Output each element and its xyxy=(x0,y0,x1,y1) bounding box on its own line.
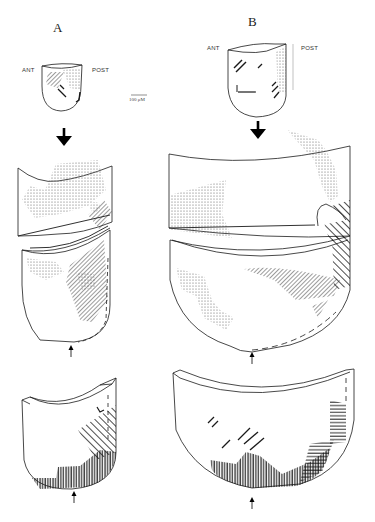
panel-a-middle-section xyxy=(22,228,110,342)
figure-drawing xyxy=(0,0,375,522)
reference-arrow-a1 xyxy=(69,345,74,357)
down-arrow-a xyxy=(56,128,72,146)
panel-b-middle-section xyxy=(170,236,350,352)
reference-arrow-a2 xyxy=(72,491,77,503)
panel-b-specimen xyxy=(228,44,293,117)
panel-a-specimen xyxy=(42,64,82,111)
panel-a-lower-section xyxy=(22,378,116,489)
panel-b-lower-section xyxy=(173,369,354,488)
down-arrow-b xyxy=(250,121,266,139)
reference-arrow-b2 xyxy=(250,497,255,509)
panel-b-upper-section xyxy=(169,130,350,244)
reference-arrow-b1 xyxy=(250,352,255,364)
